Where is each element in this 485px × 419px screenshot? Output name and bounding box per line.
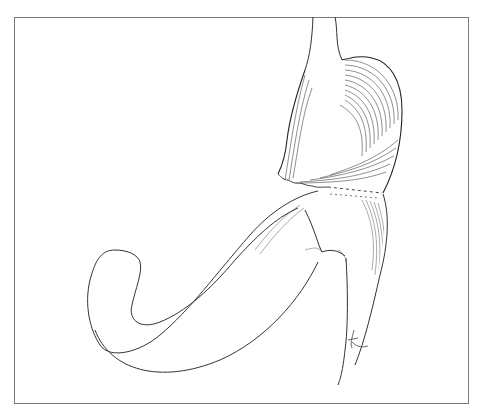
- esophagus: [305, 17, 342, 70]
- jejunal-limb-shading: [255, 200, 385, 290]
- artist-signature: [348, 330, 368, 348]
- surgical-illustration: [0, 0, 485, 419]
- figure-caption: [12, 413, 482, 419]
- jejunal-loop-outline: [88, 191, 388, 385]
